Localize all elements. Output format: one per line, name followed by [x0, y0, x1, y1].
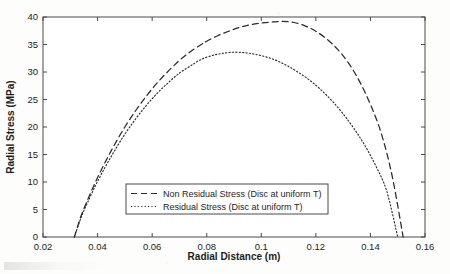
figure-canvas: 0.020.040.060.080.10.120.140.16 05101520… [0, 0, 450, 274]
radial-stress-chart: 0.020.040.060.080.10.120.140.16 05101520… [0, 0, 450, 274]
x-tick-label: 0.06 [143, 241, 162, 252]
y-tick-label: 5 [33, 204, 38, 215]
y-axis-tick-labels: 0510152025303540 [27, 11, 38, 242]
legend-label-non-residual-stress: Non Residual Stress (Disc at uniform T) [163, 189, 321, 199]
x-tick-label: 0.16 [416, 241, 435, 252]
x-tick-label: 0.04 [88, 241, 107, 252]
x-tick-label: 0.02 [34, 241, 53, 252]
x-axis-label: Radial Distance (m) [188, 251, 281, 262]
y-tick-label: 35 [27, 39, 38, 50]
x-tick-label: 0.14 [361, 241, 380, 252]
y-tick-label: 15 [27, 149, 38, 160]
y-tick-label: 40 [27, 11, 38, 22]
y-tick-label: 30 [27, 66, 38, 77]
x-tick-label: 0.12 [307, 241, 326, 252]
y-tick-label: 25 [27, 94, 38, 105]
legend-label-residual-stress: Residual Stress (Disc at uniform T) [163, 202, 302, 212]
y-tick-label: 20 [27, 121, 38, 132]
legend: Non Residual Stress (Disc at uniform T) … [126, 184, 328, 214]
y-tick-label: 10 [27, 176, 38, 187]
y-tick-label: 0 [33, 231, 38, 242]
y-axis-label: Radial Stress (MPa) [5, 80, 16, 173]
